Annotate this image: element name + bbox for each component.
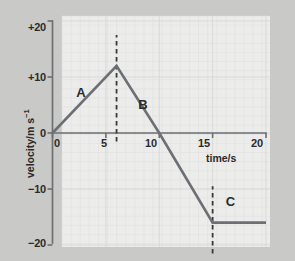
ytick-label-plus10: +10 xyxy=(2,71,46,83)
velocity-time-graph-figure: +20 +10 0 −10 −20 0 5 10 15 20 velocity/… xyxy=(0,0,295,261)
xtick-label-5: 5 xyxy=(93,137,115,149)
xtick-label-0: 0 xyxy=(46,137,68,149)
segment-label-c: C xyxy=(226,194,235,209)
ytick-label-plus20: +20 xyxy=(2,21,46,33)
segment-label-b: B xyxy=(138,97,147,112)
ytick-label-minus10: −10 xyxy=(2,183,46,195)
xtick-label-10: 10 xyxy=(140,137,162,149)
xtick-label-15: 15 xyxy=(193,137,215,149)
xtick-label-20: 20 xyxy=(246,137,268,149)
x-axis-title: time/s xyxy=(206,152,236,164)
y-axis-title: velocity/m s−1 xyxy=(22,109,36,178)
y-axis-title-base: velocity/m s xyxy=(24,118,36,178)
major-grid-lines xyxy=(62,16,270,247)
y-axis-title-exponent: −1 xyxy=(22,109,31,118)
grid-lines xyxy=(62,16,270,247)
segment-label-a: A xyxy=(76,85,85,100)
ytick-label-minus20: −20 xyxy=(2,237,46,249)
